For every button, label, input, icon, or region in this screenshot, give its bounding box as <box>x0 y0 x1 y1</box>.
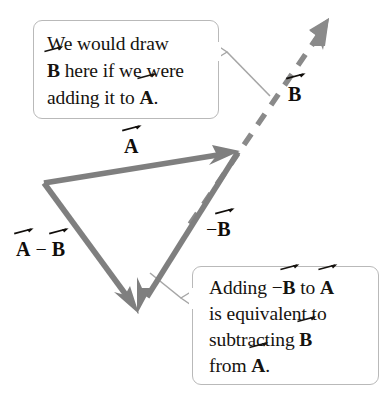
minus-sign: − <box>206 218 217 240</box>
callout-bottom-text-2: to <box>296 277 321 298</box>
vector-symbol-b: B <box>47 57 60 84</box>
vector-symbol-b: B <box>52 239 65 259</box>
callout-bottom-text-1: Adding <box>209 277 272 298</box>
label-vector-a-minus-b: A − B <box>16 239 65 259</box>
vector-symbol-a: A <box>320 275 334 301</box>
callout-bottom-text-3: is equivalent to <box>209 303 327 324</box>
label-vector-b: B <box>288 84 301 104</box>
vector-symbol-b: B <box>288 84 301 104</box>
vector-symbol-b: B <box>283 275 296 301</box>
vector-symbol-b: B <box>299 327 312 353</box>
callout-bottom-text-4: subtracting <box>209 329 299 350</box>
vector-symbol-a: A <box>124 136 138 156</box>
callout-top-text-4: . <box>153 87 158 108</box>
vector-diagram: We would draw B here if we were adding i… <box>0 0 385 415</box>
callout-top-line-1: We would draw <box>47 30 208 57</box>
callout-bottom-pointer-notch <box>189 288 196 309</box>
callout-bottom-line-2: is equivalent to <box>209 301 368 327</box>
minus-sign: − <box>272 277 283 298</box>
callout-bottom-line-3: subtracting B <box>209 327 368 353</box>
callout-bottom-text-5: from <box>209 355 251 376</box>
callout-top: We would draw B here if we were adding i… <box>33 20 219 119</box>
callout-top-line-3: adding it to A . <box>47 84 208 111</box>
vector-symbol-a: A <box>139 84 153 111</box>
vector-symbol-a: A <box>251 353 265 379</box>
callout-top-text-2: here if we were <box>60 60 184 81</box>
callout-top-text-1: We would draw <box>47 33 169 54</box>
vector-symbol-a: A <box>16 239 30 259</box>
callout-top-text-3: adding it to <box>47 87 139 108</box>
vector-a <box>44 145 240 183</box>
callout-top-line-2: B here if we were <box>47 57 208 84</box>
minus-sign: − <box>30 238 51 260</box>
callout-bottom-line-1: Adding −B to A <box>209 275 368 301</box>
vector-symbol-b: B <box>217 219 230 239</box>
callout-bottom-text-6: . <box>265 355 270 376</box>
callout-bottom-line-4: from A . <box>209 353 368 379</box>
leader-line-top <box>214 44 270 96</box>
label-vector-a: A <box>124 136 138 156</box>
callout-top-pointer-notch <box>214 42 221 61</box>
label-vector-negative-b: −B <box>206 219 231 239</box>
callout-bottom: Adding −B to A is equivalent to subtract… <box>192 266 379 385</box>
